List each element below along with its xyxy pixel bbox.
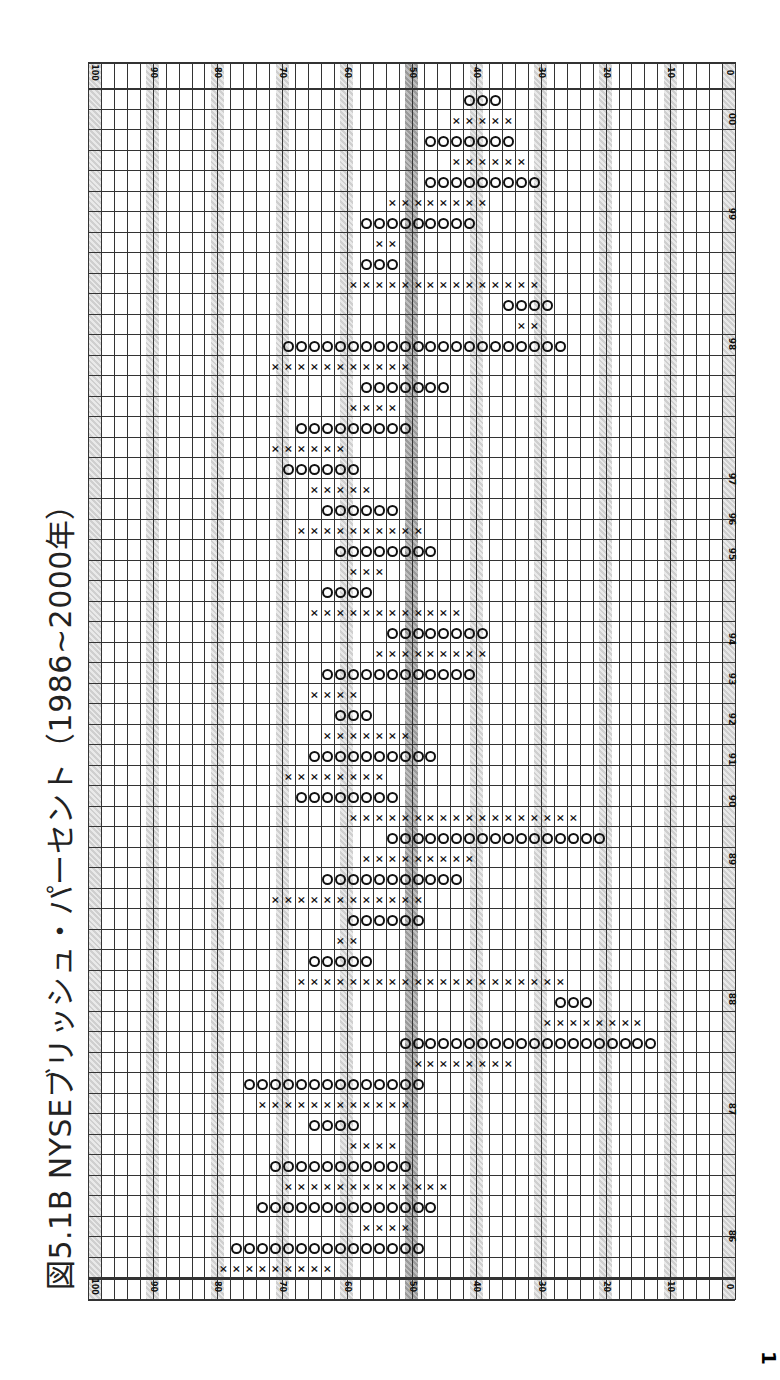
grid-vline — [593, 62, 594, 1300]
grid-hline — [88, 1134, 735, 1135]
grid-vline — [515, 62, 516, 1300]
o-box — [437, 623, 450, 643]
grid-hline — [88, 498, 735, 499]
x-box: × — [447, 155, 467, 168]
o-box — [412, 1197, 425, 1217]
o-box — [321, 869, 334, 889]
o-box — [360, 951, 373, 971]
o-box — [541, 295, 554, 315]
o-box — [541, 1033, 554, 1053]
o-box — [334, 336, 347, 356]
o-box — [334, 705, 347, 725]
o-box — [412, 664, 425, 684]
o-box — [502, 336, 515, 356]
grid-vline — [230, 62, 231, 1300]
year-label-94: 94 — [727, 627, 737, 651]
grid-hline — [88, 806, 735, 807]
x-box: × — [343, 278, 363, 291]
grid-hline — [88, 1031, 735, 1032]
o-box — [399, 664, 412, 684]
o-box — [437, 213, 450, 233]
grid-hline — [88, 1154, 735, 1155]
o-box — [360, 418, 373, 438]
o-box — [502, 131, 515, 151]
grid-vline — [256, 62, 257, 1300]
o-box — [386, 910, 399, 930]
o-box — [373, 418, 386, 438]
o-box — [269, 1156, 282, 1176]
o-box — [282, 459, 295, 479]
o-box — [360, 1156, 373, 1176]
x-box: × — [266, 442, 286, 455]
o-box — [399, 377, 412, 397]
o-box — [243, 1238, 256, 1258]
grid-vline — [619, 62, 620, 1300]
grid-vline — [192, 62, 193, 1300]
o-box — [386, 336, 399, 356]
tick-label-90: 90 — [148, 63, 157, 83]
grid-vline — [606, 62, 607, 1300]
tick-label-20: 20 — [601, 1277, 610, 1297]
o-box — [347, 664, 360, 684]
o-box — [476, 90, 489, 110]
o-box — [437, 1033, 450, 1053]
o-box — [515, 295, 528, 315]
o-box — [347, 541, 360, 561]
o-box — [412, 828, 425, 848]
tick-label-0: 0 — [724, 63, 733, 83]
o-box — [334, 541, 347, 561]
o-box — [412, 1238, 425, 1258]
grid-vline — [140, 62, 141, 1300]
o-box — [489, 336, 502, 356]
tick-label-30: 30 — [536, 63, 545, 83]
o-box — [399, 1033, 412, 1053]
o-box — [321, 1115, 334, 1135]
x-box: × — [304, 688, 324, 701]
grid-hline — [88, 662, 735, 663]
year-label-92: 92 — [727, 707, 737, 731]
o-box — [450, 828, 463, 848]
x-box: × — [408, 1057, 428, 1070]
o-box — [321, 664, 334, 684]
year-label-95: 95 — [727, 542, 737, 566]
grid-hline — [88, 1195, 735, 1196]
o-box — [282, 1238, 295, 1258]
o-box — [580, 828, 593, 848]
tick-label-10: 10 — [666, 63, 675, 83]
o-box — [450, 213, 463, 233]
grid-vline — [179, 62, 180, 1300]
o-box — [424, 213, 437, 233]
o-box — [373, 1238, 386, 1258]
o-box — [269, 1238, 282, 1258]
o-box — [386, 664, 399, 684]
year-label-00: 00 — [727, 107, 737, 131]
o-box — [256, 1238, 269, 1258]
year-label-90: 90 — [727, 789, 737, 813]
o-box — [386, 1074, 399, 1094]
o-box — [386, 541, 399, 561]
grid-hline — [88, 334, 735, 335]
grid-vline — [269, 62, 270, 1300]
o-box — [308, 1156, 321, 1176]
o-box — [386, 1156, 399, 1176]
o-box — [386, 746, 399, 766]
grid-vline — [88, 62, 89, 1300]
grid-hline — [88, 867, 735, 868]
o-box — [399, 746, 412, 766]
o-box — [360, 582, 373, 602]
o-box — [580, 1033, 593, 1053]
o-box — [412, 1074, 425, 1094]
o-box — [360, 746, 373, 766]
grid-hline — [88, 580, 735, 581]
o-box — [308, 1115, 321, 1135]
o-box — [528, 336, 541, 356]
o-box — [373, 910, 386, 930]
o-box — [295, 1238, 308, 1258]
o-box — [347, 1074, 360, 1094]
o-box — [347, 418, 360, 438]
x-box: × — [512, 319, 532, 332]
o-box — [450, 131, 463, 151]
o-box — [450, 336, 463, 356]
x-box: × — [343, 1139, 363, 1152]
o-box — [360, 664, 373, 684]
